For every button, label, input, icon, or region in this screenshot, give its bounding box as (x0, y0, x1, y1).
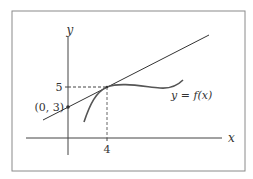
tangent-diagram: y x 5 4 (0, 3) y = f(x) (0, 0, 253, 179)
function-curve (84, 80, 183, 122)
curve-label: y = f(x) (170, 89, 212, 102)
y-intercept-label: (0, 3) (34, 101, 64, 114)
x-tick-label: 4 (104, 143, 111, 156)
tangent-point (106, 86, 108, 88)
y-intercept-point (66, 105, 70, 109)
y-tick-label: 5 (56, 81, 63, 94)
x-axis-label: x (228, 131, 235, 145)
y-axis-label: y (66, 23, 74, 37)
